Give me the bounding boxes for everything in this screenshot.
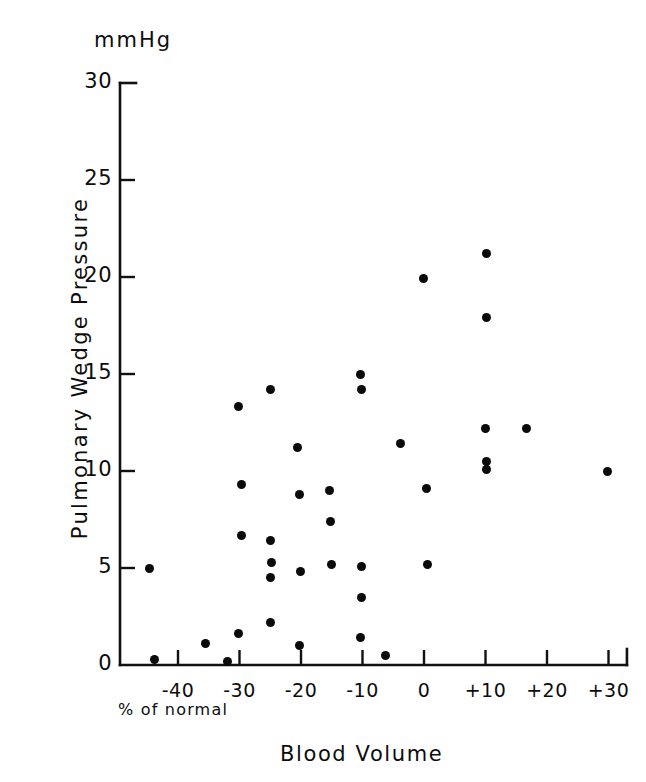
data-point: [326, 517, 335, 526]
data-point: [234, 629, 243, 638]
data-point: [267, 558, 276, 567]
data-point: [295, 490, 304, 499]
data-point: [325, 486, 334, 495]
data-point: [327, 560, 336, 569]
data-point: [482, 249, 491, 258]
x-tick-label: -10: [331, 679, 395, 701]
y-tick-label: 25: [56, 166, 112, 190]
data-point: [522, 424, 531, 433]
y-tick-label: 15: [56, 360, 112, 384]
data-point: [419, 274, 428, 283]
data-point: [237, 531, 246, 540]
data-point: [234, 402, 243, 411]
data-point: [423, 560, 432, 569]
data-point: [422, 484, 431, 493]
data-point: [296, 567, 305, 576]
data-point: [357, 562, 366, 571]
data-point: [357, 385, 366, 394]
data-point: [482, 313, 491, 322]
data-point: [201, 639, 210, 648]
data-point: [293, 443, 302, 452]
x-tick-label: 0: [392, 679, 456, 701]
data-point: [223, 657, 232, 666]
data-point: [603, 467, 612, 476]
data-point: [381, 651, 390, 660]
y-tick-label: 5: [56, 554, 112, 578]
x-tick-label: +30: [577, 679, 641, 701]
data-point: [266, 573, 275, 582]
x-tick-label: -40: [146, 679, 210, 701]
y-tick-label: 30: [56, 69, 112, 93]
data-point: [237, 480, 246, 489]
data-point: [356, 370, 365, 379]
data-point: [266, 385, 275, 394]
y-tick-label: 0: [56, 651, 112, 675]
x-tick-label: +20: [515, 679, 579, 701]
data-point: [357, 593, 366, 602]
scatter-plot-figure: mmHg Pulmonary Wedge Pressure Blood Volu…: [0, 0, 646, 782]
data-point: [396, 439, 405, 448]
data-point: [295, 641, 304, 650]
data-point: [145, 564, 154, 573]
x-tick-label: -30: [208, 679, 272, 701]
data-point: [481, 424, 490, 433]
data-point: [266, 618, 275, 627]
data-point: [482, 465, 491, 474]
x-tick-label: -20: [269, 679, 333, 701]
data-point: [266, 536, 275, 545]
y-tick-label: 10: [56, 457, 112, 481]
x-tick-label: +10: [454, 679, 518, 701]
data-point: [150, 655, 159, 664]
y-tick-label: 20: [56, 263, 112, 287]
data-point: [356, 633, 365, 642]
